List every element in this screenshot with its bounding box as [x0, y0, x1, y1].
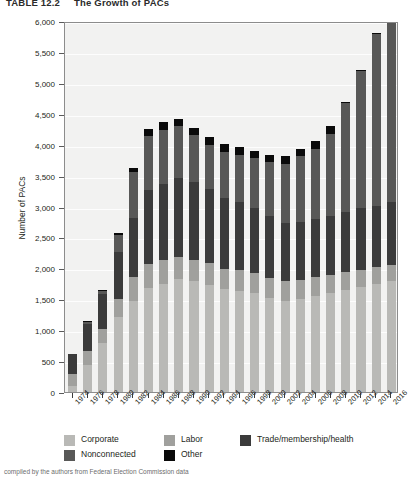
bar-segment-corporate [144, 288, 153, 392]
y-tick-label: 3,500 [35, 172, 55, 181]
bar-segment-corporate [387, 281, 396, 392]
bar-1990 [189, 22, 198, 392]
bar-segment-nonconnected [265, 162, 274, 216]
bar-1980 [114, 22, 123, 392]
bar-segment-labor [68, 374, 77, 386]
bar-2014 [372, 22, 381, 392]
bar-segment-other [311, 141, 320, 148]
bar-segment-other [98, 290, 107, 291]
bar-segment-corporate [189, 281, 198, 392]
x-tick-mark [330, 393, 331, 398]
bar-1988 [174, 22, 183, 392]
bar-segment-nonconnected [174, 126, 183, 177]
y-tick-label: 2,500 [35, 234, 55, 243]
bar-2012 [356, 22, 365, 392]
bar-segment-nonconnected [220, 152, 229, 198]
x-axis: 1974197619781980198219841986198819901992… [64, 393, 398, 433]
y-tick-label: 3,000 [35, 203, 55, 212]
bar-segment-trade-membership-health [174, 178, 183, 257]
bar-segment-corporate [250, 293, 259, 392]
bar-segment-labor [326, 275, 335, 293]
bar-segment-trade-membership-health [250, 208, 259, 273]
plot-area [64, 22, 398, 393]
bar-segment-other [174, 119, 183, 127]
x-tick-mark [360, 393, 361, 398]
y-tick-label: 500 [42, 358, 55, 367]
bar-segment-corporate [356, 287, 365, 392]
x-tick-mark [148, 393, 149, 398]
bar-segment-corporate [159, 284, 168, 392]
bar-segment-trade-membership-health [235, 202, 244, 271]
legend-label: Trade/membership/health [257, 434, 354, 444]
table-number-label: TABLE 12.2 [6, 0, 60, 8]
bar-segment-corporate [281, 301, 290, 393]
legend-swatch-icon [240, 435, 251, 446]
bar-segment-trade-membership-health [311, 219, 320, 277]
bar-segment-nonconnected [205, 145, 214, 190]
bar-segment-other [129, 168, 138, 172]
legend-label: Other [181, 449, 202, 459]
legend-row: CorporateLaborTrade/membership/health [64, 433, 404, 447]
x-tick-mark [239, 393, 240, 398]
bar-segment-nonconnected [83, 322, 92, 324]
x-tick-mark [193, 393, 194, 398]
x-tick-mark [284, 393, 285, 398]
bar-segment-nonconnected [129, 172, 138, 218]
y-tick-label: 5,000 [35, 79, 55, 88]
legend-row: NonconnectedOther [64, 448, 404, 462]
bar-segment-other [144, 129, 153, 136]
y-tick-label: 2,000 [35, 265, 55, 274]
bar-segment-nonconnected [296, 156, 305, 222]
bar-1998 [250, 22, 259, 392]
y-tick-label: 1,000 [35, 327, 55, 336]
bar-segment-nonconnected [144, 136, 153, 189]
bar-segment-labor [114, 299, 123, 318]
bar-1976 [83, 22, 92, 392]
bar-segment-other [326, 126, 335, 133]
chart-caption: compiled by the authors from Federal Ele… [0, 468, 408, 478]
bar-segment-labor [129, 277, 138, 301]
x-tick-mark [72, 393, 73, 398]
bar-segment-nonconnected [250, 158, 259, 208]
bar-segment-other [250, 151, 259, 158]
bar-1996 [235, 22, 244, 392]
y-axis-label-wrap: Number of PACs [8, 22, 22, 393]
bar-segment-other [281, 156, 290, 163]
x-tick-mark [117, 393, 118, 398]
bar-segment-nonconnected [326, 134, 335, 216]
legend-swatch-icon [64, 450, 75, 461]
bar-segment-corporate [220, 289, 229, 392]
bar-segment-labor [356, 270, 365, 287]
bar-segment-other [114, 233, 123, 235]
y-tick-label: 0 [51, 389, 55, 398]
bar-segment-trade-membership-health [159, 184, 168, 261]
bar-segment-trade-membership-health [144, 190, 153, 264]
legend-swatch-icon [164, 450, 175, 461]
bar-segment-corporate [129, 301, 138, 392]
bar-segment-labor [341, 272, 350, 290]
bar-segment-corporate [326, 293, 335, 392]
bar-1994 [220, 22, 229, 392]
bar-segment-trade-membership-health [265, 216, 274, 278]
bar-segment-other [235, 147, 244, 154]
bar-segment-nonconnected [311, 149, 320, 219]
bar-segment-trade-membership-health [98, 294, 107, 329]
y-tick-label: 4,000 [35, 141, 55, 150]
bar-segment-corporate [296, 299, 305, 392]
bar-segment-labor [159, 260, 168, 284]
bar-segment-other [372, 33, 381, 34]
bar-segment-trade-membership-health [296, 222, 305, 280]
chart-legend: CorporateLaborTrade/membership/healthNon… [64, 433, 404, 465]
bar-1984 [144, 22, 153, 392]
caption-text: compiled by the authors from Federal Ele… [4, 468, 189, 475]
y-tick-label: 1,500 [35, 296, 55, 305]
bar-segment-trade-membership-health [341, 212, 350, 273]
y-tick-label: 6,000 [35, 18, 55, 27]
x-tick-mark [269, 393, 270, 398]
bar-segment-trade-membership-health [189, 182, 198, 260]
bar-segment-corporate [372, 284, 381, 392]
bar-segment-corporate [174, 279, 183, 392]
bar-2000 [265, 22, 274, 392]
bar-1986 [159, 22, 168, 392]
bar-1992 [205, 22, 214, 392]
